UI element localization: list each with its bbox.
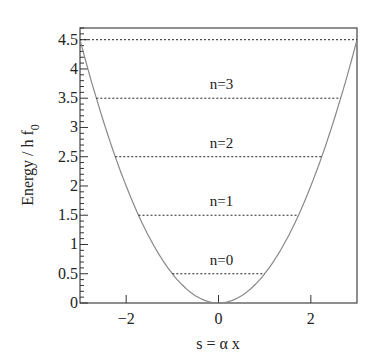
- y-tick-label: 4: [70, 60, 78, 77]
- y-axis-label-subscript: 0: [28, 124, 42, 130]
- y-tick-label: 3.5: [58, 89, 78, 106]
- x-axis-label: s = α x: [196, 335, 240, 352]
- y-tick-label: 4.5: [58, 31, 78, 48]
- y-tick-label: 0: [70, 294, 78, 311]
- energy-level-label: n=3: [210, 76, 233, 92]
- energy-levels-chart: 00.511.522.533.544.5−202n=0n=1n=2n=3 s =…: [0, 0, 384, 363]
- x-tick-label: −2: [118, 310, 135, 327]
- energy-level-label: n=0: [210, 252, 233, 268]
- y-tick-label: 2.5: [58, 148, 78, 165]
- y-tick-label: 3: [70, 118, 78, 135]
- svg-text:Energy / h f0: Energy / h f0: [19, 124, 42, 206]
- x-tick-label: 0: [215, 310, 223, 327]
- y-tick-label: 2: [70, 177, 78, 194]
- plot-area: 00.511.522.533.544.5−202n=0n=1n=2n=3: [58, 28, 357, 327]
- y-tick-label: 1: [70, 235, 78, 252]
- energy-level-label: n=2: [210, 135, 233, 151]
- energy-level-label: n=1: [210, 193, 233, 209]
- y-axis-label-text: Energy / h f: [19, 129, 37, 205]
- x-tick-label: 2: [307, 310, 315, 327]
- y-tick-label: 1.5: [58, 206, 78, 223]
- y-tick-label: 0.5: [58, 265, 78, 282]
- y-axis-label: Energy / h f0: [19, 124, 42, 206]
